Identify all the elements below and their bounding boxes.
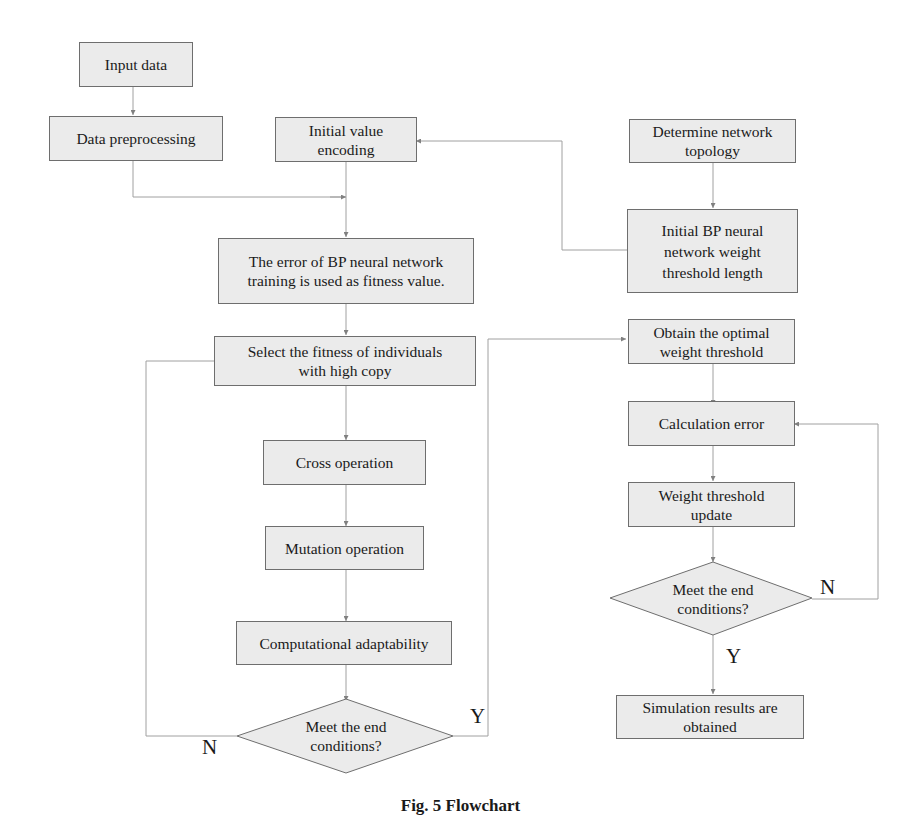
computational-adaptability-box: Computational adaptability <box>236 621 452 665</box>
calculation-error-label: Calculation error <box>659 414 764 433</box>
cross-operation-label: Cross operation <box>296 453 394 472</box>
simulation-results-label: Simulation results are obtained <box>627 698 793 736</box>
left-decision-no-label: N <box>202 735 217 760</box>
right-decision-yes-label: Y <box>726 644 741 669</box>
figure-caption: Fig. 5 Flowchart <box>0 796 921 816</box>
input-data-box: Input data <box>79 42 193 87</box>
calculation-error-box: Calculation error <box>628 401 795 446</box>
network-topology-label: Determine network topology <box>642 122 783 160</box>
left-decision-label: Meet the end conditions? <box>276 717 416 755</box>
weight-threshold-update-label: Weight threshold update <box>651 486 772 524</box>
select-fitness-box: Select the fitness of individuals with h… <box>214 336 476 386</box>
weight-threshold-length-label: Initial BP neural network weight thresho… <box>642 220 783 283</box>
initial-value-encoding-label: Initial value encoding <box>290 121 402 159</box>
select-fitness-label: Select the fitness of individuals with h… <box>233 342 457 380</box>
fitness-value-box: The error of BP neural network training … <box>218 238 474 304</box>
optimal-weight-threshold-label: Obtain the optimal weight threshold <box>641 323 782 361</box>
right-decision-label: Meet the end conditions? <box>648 580 778 618</box>
data-preprocessing-label: Data preprocessing <box>76 129 195 148</box>
optimal-weight-threshold-box: Obtain the optimal weight threshold <box>628 319 795 364</box>
initial-value-encoding-box: Initial value encoding <box>275 117 417 162</box>
computational-adaptability-label: Computational adaptability <box>259 634 428 653</box>
fitness-value-label: The error of BP neural network training … <box>229 252 463 290</box>
network-topology-box: Determine network topology <box>629 119 796 163</box>
mutation-operation-box: Mutation operation <box>265 526 424 570</box>
simulation-results-box: Simulation results are obtained <box>616 695 804 739</box>
weight-threshold-length-box: Initial BP neural network weight thresho… <box>627 209 798 293</box>
input-data-label: Input data <box>105 55 167 74</box>
data-preprocessing-box: Data preprocessing <box>49 116 223 161</box>
left-decision-yes-label: Y <box>470 704 485 729</box>
mutation-operation-label: Mutation operation <box>285 539 404 558</box>
weight-threshold-update-box: Weight threshold update <box>628 482 795 527</box>
right-decision-no-label: N <box>820 575 835 600</box>
cross-operation-box: Cross operation <box>263 440 426 485</box>
